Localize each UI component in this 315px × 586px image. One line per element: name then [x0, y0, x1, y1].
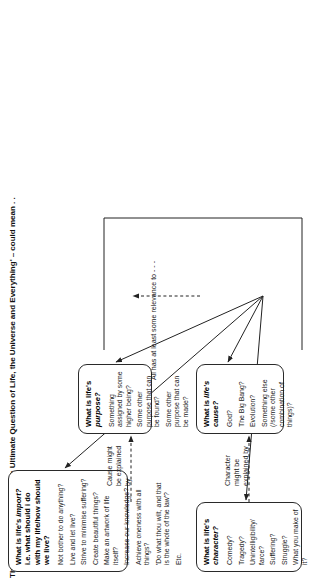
node-cause-title: What is life's cause? — [202, 371, 221, 427]
edge-hub-to-purpose — [116, 296, 263, 362]
node-life-cause[interactable]: What is life's cause? God? The Big Bang?… — [196, 364, 284, 434]
rotated-diagram-wrapper: The Ultimate Question – 'the Ultimate Qu… — [0, 0, 315, 586]
list-item: Something else (/some other combination … — [261, 371, 295, 427]
node-life-character[interactable]: What is life's character? Comedy? Traged… — [196, 502, 302, 572]
list-item: Struggle? — [281, 509, 289, 565]
diagram-canvas: The Ultimate Question – 'the Ultimate Qu… — [0, 0, 315, 586]
list-item: God? — [226, 371, 234, 427]
list-item: Make an artwork of life itself? — [103, 477, 120, 565]
list-item: Live and let live? — [69, 477, 77, 565]
list-item: Suffering? — [269, 509, 277, 565]
edge-label-relevance: All has at least some relevance to - - - — [150, 220, 159, 380]
list-item: Etc. — [175, 477, 183, 565]
list-item: The Big Bang? — [238, 371, 246, 427]
relevance-bracket — [104, 218, 302, 350]
node-import-options: Not bother to do anything? Live and let … — [57, 477, 184, 565]
list-item: Unintelligibility/ farce? — [249, 509, 266, 565]
list-item: What you make of it? — [292, 509, 309, 565]
node-life-purpose[interactable]: What is life's purpose? Something assign… — [78, 364, 152, 434]
edge-label-cause-explained: Cause might be explained by — [106, 438, 133, 486]
node-cause-options: God? The Big Bang? Evolution? Something … — [226, 371, 295, 427]
list-item: Create beautiful things? — [92, 477, 100, 565]
node-purpose-title: What is life's purpose? — [84, 371, 103, 427]
node-character-options: Comedy? Tragedy? Unintelligibility/ farc… — [226, 509, 309, 565]
list-item: Tragedy? — [238, 509, 246, 565]
list-item: Some other purpose that can be made? — [165, 371, 190, 427]
list-item: Evolution? — [249, 371, 257, 427]
list-item: Strive to minimise suffering? — [80, 477, 88, 565]
edge-label-character-explained: Character might be explained by — [224, 438, 251, 486]
node-character-title: What is life's character? — [202, 509, 221, 565]
node-import-title: What is life's import? i.e. what should … — [14, 477, 52, 565]
list-item: Increase our knowledge? — [123, 477, 131, 565]
edge-hub-to-cause — [228, 296, 263, 362]
list-item: Comedy? — [226, 509, 234, 565]
list-item: 'Do what thou wilt, and that is the whol… — [155, 477, 172, 565]
list-item: Something assigned by some higher being? — [108, 371, 133, 427]
list-item: Not bother to do anything? — [57, 477, 65, 565]
list-item: Achieve oneness with all things? — [135, 477, 152, 565]
